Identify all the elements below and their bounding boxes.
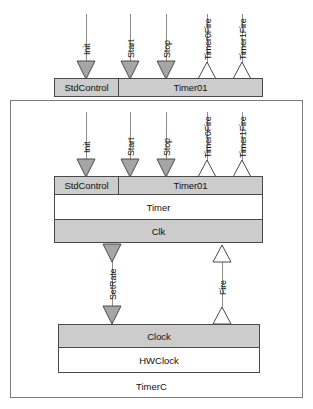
signal-label-stop-top: Stop: [162, 40, 172, 58]
arrowhead-setrate-bottom: [103, 306, 123, 326]
signal-label-timer0fire-mid: Timer0Fire: [203, 116, 213, 158]
clock-interface-clock[interactable]: Clock: [58, 324, 260, 348]
signal-label-init-mid: Init: [82, 142, 92, 153]
timer-interface-clk[interactable]: Clk: [54, 219, 263, 243]
timer-interface-stdcontrol[interactable]: StdControl: [54, 176, 119, 195]
signal-label-start-top: Start: [126, 40, 136, 58]
top-interface-timer01[interactable]: Timer01: [118, 78, 263, 97]
timer-module-body[interactable]: Timer: [54, 194, 263, 220]
arrowhead-setrate-top: [103, 244, 123, 264]
signal-label-init-top: Init: [82, 44, 92, 55]
top-interface-stdcontrol[interactable]: StdControl: [54, 78, 119, 97]
signal-label-timer1fire-top: Timer1Fire: [238, 18, 248, 60]
signal-label-stop-mid: Stop: [162, 138, 172, 156]
arrowhead-fire-top: [213, 245, 233, 265]
timer-interface-timer01[interactable]: Timer01: [118, 176, 263, 195]
signal-label-timer1fire-mid: Timer1Fire: [238, 116, 248, 158]
signal-label-start-mid: Start: [126, 138, 136, 156]
signal-label-fire: Fire: [218, 280, 228, 295]
diagram-canvas: Init Start Stop Timer0Fire Timer1Fire St…: [0, 0, 313, 409]
timerc-component-label: TimerC: [136, 381, 167, 392]
hwclock-module-body[interactable]: HWClock: [58, 347, 260, 373]
signal-label-timer0fire-top: Timer0Fire: [203, 18, 213, 60]
signal-label-setrate: SetRate: [108, 269, 118, 300]
